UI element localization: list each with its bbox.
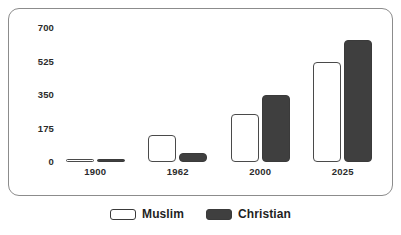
y-axis-tick-label: 0: [8, 157, 54, 167]
bar-muslim-2025[interactable]: [313, 62, 341, 163]
bar-group-2025: [313, 28, 372, 162]
y-axis-tick-label: 700: [8, 23, 54, 33]
y-axis-tick-label: 175: [8, 124, 54, 134]
legend-label-muslim: Muslim: [142, 207, 184, 221]
bar-christian-1900[interactable]: [97, 159, 125, 162]
y-axis-tick-label: 525: [8, 57, 54, 67]
bar-christian-2025[interactable]: [344, 40, 372, 163]
bar-group-2000: [231, 28, 290, 162]
legend-label-christian: Christian: [238, 207, 291, 221]
bar-chart-figure: 0175350525700 1900196220002025 MuslimChr…: [0, 0, 401, 235]
legend-item-muslim[interactable]: Muslim: [110, 207, 184, 221]
chart-legend: MuslimChristian: [0, 202, 401, 226]
bar-groups: [54, 28, 384, 162]
x-axis-tick-label-1900: 1900: [54, 166, 137, 182]
bar-christian-2000[interactable]: [262, 95, 290, 162]
bar-muslim-2000[interactable]: [231, 114, 259, 162]
y-axis-tick-label: 350: [8, 90, 54, 100]
x-axis-tick-label-2000: 2000: [219, 166, 302, 182]
x-axis-tick-label-1962: 1962: [137, 166, 220, 182]
legend-item-christian[interactable]: Christian: [206, 207, 291, 221]
y-axis: 0175350525700: [8, 28, 54, 163]
bar-muslim-1962[interactable]: [148, 135, 176, 162]
legend-swatch-muslim: [110, 209, 136, 220]
bar-group-1962: [148, 28, 207, 162]
x-axis: 1900196220002025: [54, 166, 384, 182]
bar-muslim-1900[interactable]: [66, 159, 94, 162]
bar-group-1900: [66, 28, 125, 162]
legend-swatch-christian: [206, 209, 232, 220]
x-axis-tick-label-2025: 2025: [302, 166, 385, 182]
bar-christian-1962[interactable]: [179, 153, 207, 162]
